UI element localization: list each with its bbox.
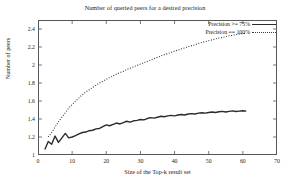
plot-area [38,20,277,155]
legend-line-sample-solid [252,24,276,25]
x-tick-label: 60 [233,158,253,164]
y-tick-label: 1.6 [1,98,35,104]
y-axis-tick-labels: 11.21.41.61.822.22.4 [0,0,35,182]
x-tick-label: 20 [96,158,116,164]
x-tick-label: 0 [28,158,48,164]
x-tick-label: 70 [267,158,287,164]
series-line-2 [48,33,246,137]
legend-label: Precision == 100% [205,29,250,35]
legend-label: Precision >= 75% [208,21,250,27]
x-tick-label: 40 [165,158,185,164]
x-axis-title: Size of the Top-k result set [38,168,277,175]
legend-item: Precision >= 75% [186,21,276,28]
y-tick-label: 2.2 [1,44,35,50]
x-tick-label: 30 [130,158,150,164]
chart-legend: Precision >= 75%Precision == 100% [186,21,276,37]
y-tick-label: 1.4 [1,116,35,122]
legend-item: Precision == 100% [186,29,276,36]
data-series-group [45,33,246,149]
x-tick-label: 10 [62,158,82,164]
series-line-1 [45,111,246,150]
chart-title: Number of queried peers for a desired pr… [0,4,290,11]
legend-line-sample-dotted [252,32,276,33]
chart-figure: Number of queried peers for a desired pr… [0,0,290,182]
y-tick-label: 2.4 [1,26,35,32]
x-tick-label: 50 [199,158,219,164]
y-tick-label: 2 [1,62,35,68]
y-tick-label: 1.8 [1,80,35,86]
y-tick-label: 1.2 [1,134,35,140]
axis-tick-marks [38,20,277,155]
